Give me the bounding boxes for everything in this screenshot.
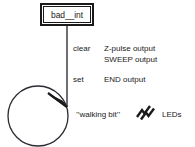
footer-walking-bit-label: ’’walking bit’’ bbox=[76, 109, 120, 120]
footer-leds-label: LEDs bbox=[162, 109, 182, 120]
state-diagram-canvas: bad__int clear Z-pulse output SWEEP outp… bbox=[0, 0, 195, 147]
loop-arrow-tail bbox=[48, 93, 67, 107]
state-node-inner: bad__int bbox=[43, 6, 91, 23]
diagram-vector-layer bbox=[0, 0, 195, 147]
self-loop-circle bbox=[8, 86, 68, 146]
annotation-key-set: set bbox=[73, 74, 84, 85]
annotation-key-clear: clear bbox=[73, 43, 90, 54]
state-node-bad-int[interactable]: bad__int bbox=[40, 3, 94, 26]
annotation-value-sweep-output: SWEEP output bbox=[104, 54, 157, 65]
annotation-value-z-pulse-output: Z-pulse output bbox=[104, 43, 155, 54]
state-node-label: bad__int bbox=[51, 10, 83, 20]
annotation-value-end-output: END output bbox=[104, 74, 145, 85]
led-zigzag-icon bbox=[136, 105, 158, 121]
